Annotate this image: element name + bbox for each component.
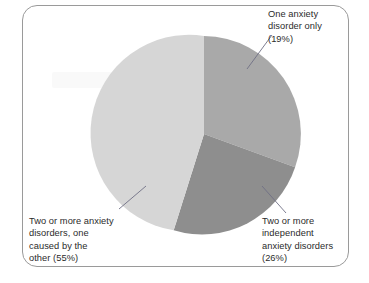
pie-label-two-or-more-caused-by-other: Two or more anxiety disorders, one cause… xyxy=(29,215,147,265)
chart-figure: One anxiety disorder only (19%) Two or m… xyxy=(0,0,369,283)
pie-label-one-anxiety-disorder-only: One anxiety disorder only (19%) xyxy=(268,8,364,45)
pie-label-two-or-more-independent: Two or more independent anxiety disorder… xyxy=(262,215,366,265)
